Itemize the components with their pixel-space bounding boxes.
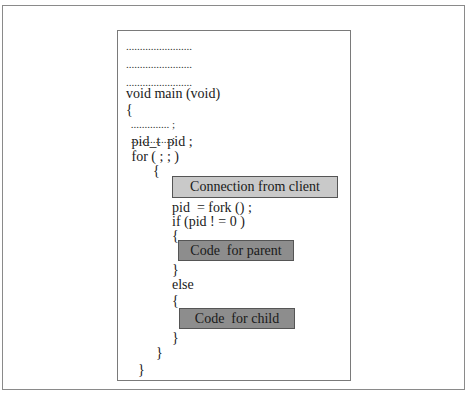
code-for-close-brace: } xyxy=(156,345,163,361)
code-if-close-brace: } xyxy=(172,262,179,278)
code-main-signature: void main (void) xyxy=(126,86,220,102)
code-for-open-brace: { xyxy=(153,163,160,179)
connection-from-client-block: Connection from client xyxy=(172,176,338,198)
code-else-open-brace: { xyxy=(172,293,179,309)
code-for-parent-block: Code for parent xyxy=(178,240,294,261)
code-main-close-brace: } xyxy=(138,362,145,378)
code-for-child-block: Code for child xyxy=(179,308,295,329)
code-declaration-1: .............. ; xyxy=(128,116,175,132)
code-else: else xyxy=(172,277,194,293)
code-pid-declaration: pid_t pid ; xyxy=(128,134,193,150)
placeholder-line-2: ........................ xyxy=(126,56,192,72)
code-if-parent: if (pid ! = 0 ) xyxy=(172,214,245,230)
placeholder-line-1: ........................ xyxy=(126,38,192,54)
code-else-close-brace: } xyxy=(172,330,179,346)
